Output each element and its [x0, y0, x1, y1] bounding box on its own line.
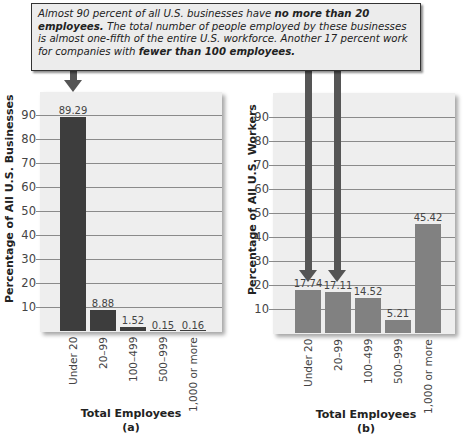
bar-value-label: 0.16	[173, 320, 213, 331]
tick-mark	[36, 235, 40, 236]
bar-value-label: 8.88	[83, 298, 123, 309]
tick-mark	[269, 189, 273, 190]
y-tick-label: 90	[247, 111, 269, 123]
y-tick-label: 80	[14, 133, 36, 145]
y-tick-label: 50	[14, 205, 36, 217]
x-tick-label: Under 20	[302, 339, 314, 387]
y-tick-label: 60	[247, 183, 269, 195]
tick-mark	[36, 139, 40, 140]
panel-label-b: (b)	[286, 422, 446, 435]
y-tick-label: 30	[14, 253, 36, 265]
x-tick-label: 20–99	[97, 337, 109, 369]
arrow-to-20-99-b	[334, 71, 341, 271]
y-tick-label: 10	[14, 301, 36, 313]
bar-value-label: 89.29	[53, 105, 93, 116]
tick-mark	[269, 261, 273, 262]
x-tick-label: Under 20	[67, 337, 79, 385]
tick-mark	[36, 283, 40, 284]
tick-mark	[36, 307, 40, 308]
tick-mark	[269, 165, 273, 166]
x-tick-label: 500–999	[157, 337, 169, 382]
tick-mark	[269, 237, 273, 238]
callout-text: Almost 90 percent of all U.S. businesses…	[38, 8, 274, 19]
tick-mark	[269, 309, 273, 310]
bar-0	[295, 290, 321, 333]
gridline	[273, 141, 455, 142]
y-tick-label: 80	[247, 135, 269, 147]
tick-mark	[36, 259, 40, 260]
y-tick-label: 40	[247, 231, 269, 243]
callout-box: Almost 90 percent of all U.S. businesses…	[31, 3, 421, 71]
y-tick-label: 90	[14, 109, 36, 121]
y-tick-label: 70	[14, 157, 36, 169]
arrow-head-icon	[64, 80, 82, 92]
bar-value-label: 5.21	[378, 308, 418, 319]
bar-value-label: 45.42	[408, 212, 448, 223]
y-tick-label: 50	[247, 207, 269, 219]
arrow-head-icon	[328, 270, 346, 282]
gridline	[273, 189, 455, 190]
tick-mark	[36, 211, 40, 212]
tick-mark	[36, 115, 40, 116]
arrow-to-under20-b	[305, 71, 312, 271]
x-tick-label: 100–499	[127, 337, 139, 382]
bar-3	[385, 320, 411, 333]
tick-mark	[36, 187, 40, 188]
tick-mark	[269, 213, 273, 214]
y-tick-label: 40	[14, 229, 36, 241]
tick-mark	[269, 285, 273, 286]
bar-1	[325, 292, 351, 333]
y-tick-label: 70	[247, 159, 269, 171]
y-tick-label: 10	[247, 303, 269, 315]
tick-mark	[269, 141, 273, 142]
gridline	[273, 165, 455, 166]
bar-4	[415, 224, 441, 333]
y-tick-label: 20	[247, 279, 269, 291]
x-tick-label: 500–999	[392, 339, 404, 384]
x-tick-label: 100–499	[362, 339, 374, 384]
x-tick-label: 20–99	[332, 339, 344, 371]
tick-mark	[269, 117, 273, 118]
callout-emphasis: fewer than 100 employees.	[139, 46, 296, 57]
x-tick-label: 1,000 or more	[187, 337, 199, 412]
tick-mark	[36, 163, 40, 164]
x-tick-label: 1,000 or more	[422, 339, 434, 414]
panel-label-a: (a)	[51, 421, 211, 434]
y-axis-label-a: Percentage of All U.S. Businesses	[3, 94, 16, 303]
arrow-head-icon	[299, 270, 317, 282]
y-tick-label: 30	[247, 255, 269, 267]
y-tick-label: 20	[14, 277, 36, 289]
bar-value-label: 14.52	[348, 286, 388, 297]
y-tick-label: 60	[14, 181, 36, 193]
gridline	[273, 117, 455, 118]
